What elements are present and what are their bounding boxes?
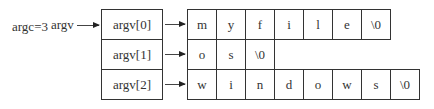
- argc-label: argc=3: [12, 19, 48, 35]
- char-cell: o: [303, 69, 333, 100]
- char-cell: o: [187, 39, 217, 70]
- char-cell: n: [245, 69, 275, 100]
- char-cell: d: [274, 69, 304, 100]
- char-cell: l: [303, 9, 333, 40]
- argv-cell: argv[0]: [101, 9, 163, 40]
- char-cell: i: [274, 9, 304, 40]
- char-cell: y: [216, 9, 246, 40]
- char-cell: e: [332, 9, 362, 40]
- char-cell: \0: [390, 69, 420, 100]
- char-cell: i: [216, 69, 246, 100]
- argv-label: argv: [51, 17, 74, 33]
- char-cell: s: [361, 69, 391, 100]
- char-cell: f: [245, 9, 275, 40]
- pointer-arrow: [165, 54, 185, 55]
- argv-cell: argv[2]: [101, 69, 163, 100]
- char-cell: w: [187, 69, 217, 100]
- char-cell: w: [332, 69, 362, 100]
- pointer-arrow: [165, 84, 185, 85]
- argv-arrow: [77, 25, 99, 26]
- char-cell: \0: [361, 9, 391, 40]
- char-cell: m: [187, 9, 217, 40]
- char-cell: \0: [245, 39, 275, 70]
- pointer-arrow: [165, 24, 185, 25]
- char-cell: s: [216, 39, 246, 70]
- argv-cell: argv[1]: [101, 39, 163, 70]
